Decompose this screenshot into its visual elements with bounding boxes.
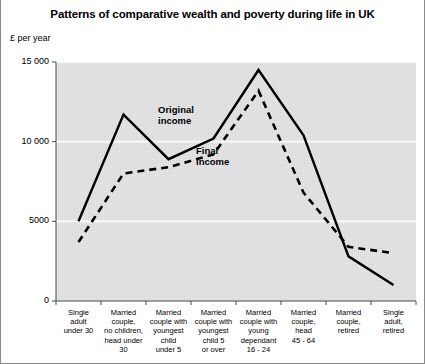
x-axis-tick-label: Married couple, no children, head under … — [101, 308, 146, 354]
series-annotation-label: Final income — [196, 146, 229, 167]
series-annotation-label: Original income — [158, 105, 194, 126]
y-axis-tick-label: 10 000 — [0, 136, 49, 146]
x-axis-tick-label: Married couple with young dependant 16 -… — [236, 308, 281, 354]
x-axis-tick-label: Single adult under 30 — [56, 308, 101, 336]
chart-figure: Patterns of comparative wealth and pover… — [0, 0, 425, 364]
y-axis-tick-label: 0 — [0, 295, 49, 305]
y-axis-tick-label: 15 000 — [0, 56, 49, 66]
x-axis-tick-label: Married couple, head 45 - 64 — [281, 308, 326, 345]
y-axis-tick-label: 5000 — [0, 215, 49, 225]
x-axis-tick-label: Married couple with youngest child 5 or … — [191, 308, 236, 354]
x-axis-tick-label: Married couple, retired — [326, 308, 371, 336]
x-axis-tick-label: Single adult, retired — [371, 308, 416, 336]
x-axis-tick-label: Married couple with youngest child under… — [146, 308, 191, 354]
